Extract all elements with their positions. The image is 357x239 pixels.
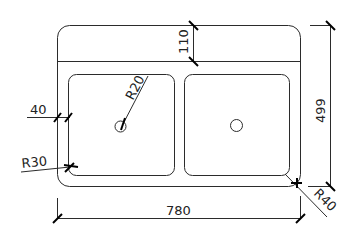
dim-text-780: 780 — [166, 203, 191, 218]
dim-overall-width: 780 — [53, 196, 305, 223]
drain-right — [231, 120, 243, 132]
dim-text-499: 499 — [313, 98, 328, 123]
dim-text-r30: R30 — [21, 153, 48, 171]
dim-bowl-corner-radius: R30 — [21, 153, 78, 172]
dim-overall-depth: 499 — [308, 21, 335, 191]
bowl-left — [69, 75, 175, 176]
dim-back-ledge: 110 — [176, 21, 198, 66]
sink-drawing: 110 499 780 40 R20 R30 — [0, 0, 357, 239]
dim-drain-radius: R20 — [121, 73, 148, 130]
dim-outer-corner-radius: R40 — [285, 174, 340, 217]
dim-text-r40: R40 — [311, 186, 340, 215]
dim-side-margin: 40 — [27, 102, 72, 122]
bowl-right — [185, 75, 290, 176]
dim-text-110: 110 — [176, 29, 191, 54]
dim-text-r20: R20 — [122, 73, 147, 103]
dim-text-40: 40 — [30, 102, 47, 117]
